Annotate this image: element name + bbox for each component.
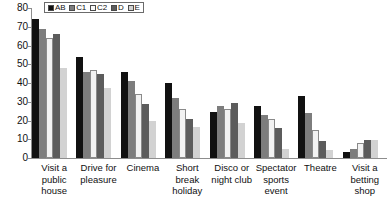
bar-c2	[90, 70, 97, 158]
bar-ab	[121, 72, 128, 158]
y-axis-tick-label: 80	[4, 3, 28, 13]
bar-cluster	[254, 8, 298, 158]
bar-d	[275, 128, 282, 158]
bar-d	[364, 140, 371, 158]
bar-c1	[83, 72, 90, 158]
bar-c1	[39, 29, 46, 158]
bar-e	[238, 123, 245, 158]
legend-label: C2	[97, 4, 107, 12]
y-axis-tick-label: 20	[4, 116, 28, 126]
bar-c2	[312, 130, 319, 158]
legend-swatch-icon	[48, 5, 54, 11]
y-axis-tick-label: 40	[4, 78, 28, 88]
bar-cluster	[121, 8, 165, 158]
bar-c1	[172, 98, 179, 158]
bar-chart: ABC1C2DE 80706050403020100 Visit a publi…	[0, 0, 389, 212]
bar-d	[319, 141, 326, 158]
y-axis-tick-label: 60	[4, 41, 28, 51]
legend-entry-e: E	[128, 4, 140, 12]
y-axis-tick-label: 50	[4, 59, 28, 69]
bar-e	[193, 127, 200, 158]
bar-e	[104, 88, 111, 158]
bar-ab	[32, 19, 39, 158]
bar-clusters	[32, 8, 387, 158]
bar-cluster	[32, 8, 76, 158]
bar-e	[326, 150, 333, 158]
x-axis-category-label: Drive for pleasure	[76, 162, 120, 210]
bar-c2	[46, 38, 53, 158]
bar-d	[142, 104, 149, 158]
legend-swatch-icon	[128, 5, 134, 11]
x-axis-category-label: Theatre	[298, 162, 342, 210]
x-axis-category-label: Visit a public house	[32, 162, 76, 210]
bar-cluster	[298, 8, 342, 158]
legend-swatch-icon	[90, 5, 96, 11]
bar-c2	[179, 109, 186, 158]
legend-entry-c1: C1	[69, 4, 86, 12]
bar-c2	[224, 109, 231, 158]
bar-e	[60, 68, 67, 158]
y-axis-tick-label: 30	[4, 97, 28, 107]
bar-ab	[76, 57, 83, 158]
bar-ab	[343, 152, 350, 158]
bar-c1	[261, 115, 268, 158]
bar-e	[149, 121, 156, 159]
y-axis-tick-label: 10	[4, 134, 28, 144]
bar-c1	[305, 113, 312, 158]
bar-cluster	[165, 8, 209, 158]
bar-e	[371, 140, 378, 158]
bar-d	[231, 103, 238, 158]
bar-d	[53, 34, 60, 158]
bar-ab	[298, 96, 305, 158]
legend-label: C1	[76, 4, 86, 12]
legend-label: E	[135, 4, 140, 12]
bar-d	[97, 74, 104, 158]
bar-c2	[268, 119, 275, 158]
chart-legend: ABC1C2DE	[44, 2, 144, 13]
legend-label: AB	[55, 4, 65, 12]
y-axis-tick-label: 0	[4, 153, 28, 163]
y-axis-tick-label: 70	[4, 22, 28, 32]
bar-ab	[165, 83, 172, 158]
bar-c1	[217, 106, 224, 158]
legend-entry-d: D	[111, 4, 124, 12]
bar-c2	[357, 143, 364, 158]
bar-cluster	[343, 8, 387, 158]
legend-swatch-icon	[69, 5, 75, 11]
bar-c2	[135, 94, 142, 158]
x-axis-line	[31, 158, 387, 159]
bar-cluster	[76, 8, 120, 158]
x-axis-category-label: Cinema	[121, 162, 165, 210]
bar-c1	[350, 149, 357, 158]
bar-d	[186, 119, 193, 158]
x-axis-category-label: Visit a betting shop	[343, 162, 387, 210]
bar-e	[282, 149, 289, 158]
bar-cluster	[210, 8, 254, 158]
x-axis-category-label: Disco or night club	[210, 162, 254, 210]
x-axis-category-label: Spectator sports event	[254, 162, 298, 210]
legend-label: D	[118, 4, 124, 12]
bar-ab	[254, 106, 261, 159]
x-axis-category-label: Short break holiday	[165, 162, 209, 210]
x-axis-category-labels: Visit a public houseDrive for pleasureCi…	[32, 162, 387, 210]
bar-ab	[210, 112, 217, 158]
legend-entry-ab: AB	[48, 4, 65, 12]
bar-c1	[128, 81, 135, 158]
legend-entry-c2: C2	[90, 4, 107, 12]
legend-swatch-icon	[111, 5, 117, 11]
